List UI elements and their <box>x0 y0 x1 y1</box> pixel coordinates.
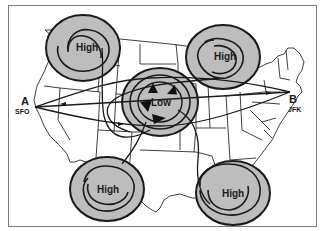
origin-airport-code: SFO <box>15 108 29 115</box>
destination-point-letter: B <box>289 94 297 105</box>
label-low-central: Low <box>151 97 171 108</box>
label-high-northwest: High <box>76 42 98 53</box>
destination-airport-code: JFK <box>288 106 301 113</box>
label-high-northeast: High <box>214 51 236 62</box>
us-map-diagram: High High Low High High <box>0 0 320 231</box>
label-high-southeast: High <box>222 188 244 199</box>
origin-point-letter: A <box>21 96 29 107</box>
diagram-canvas: High High Low High High A SFO B JFK <box>0 0 320 231</box>
label-high-southwest: High <box>97 184 119 195</box>
